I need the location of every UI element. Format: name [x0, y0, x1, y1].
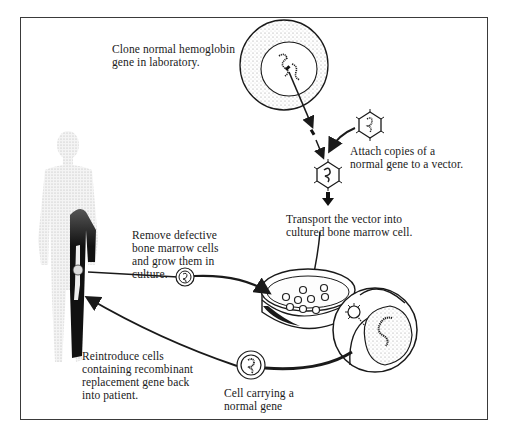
step-cell-carrying-label: Cell carrying a normal gene: [224, 387, 294, 413]
step-remove-label: Remove defective bone marrow cells and g…: [132, 229, 219, 281]
source-cell-icon: [240, 20, 328, 110]
vector-with-gene-icon: [314, 159, 342, 191]
patient-silhouette: [38, 131, 98, 362]
magnified-cell-icon: [333, 288, 417, 372]
step-attach-label: Attach copies of a normal gene to a vect…: [350, 145, 463, 171]
modified-cell-icon: [237, 351, 265, 379]
arrow-gene-to-vector: [316, 140, 323, 157]
step-clone-label: Clone normal hemoglobin gene in laborato…: [112, 43, 235, 69]
step-reintroduce-label: Reintroduce cells containing recombinant…: [82, 350, 193, 402]
vector-icon: [356, 109, 384, 141]
arrow-magnified-to-cell: [265, 352, 352, 369]
gene-fragment-icon: [310, 129, 316, 136]
diagram-artwork: [0, 0, 511, 438]
down-arrow-icon: [322, 192, 334, 206]
step-transport-label: Transport the vector into cultured bone …: [286, 213, 413, 239]
